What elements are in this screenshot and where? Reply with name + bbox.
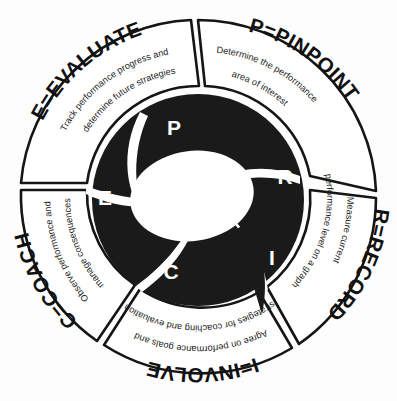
core-letter-i: I	[269, 246, 275, 269]
core-letter-e: E	[98, 186, 112, 209]
core-letter-c: C	[163, 260, 178, 283]
price-model-diagram: P R I C E P=PINPOINT R=RECORD I=INVOLVE …	[0, 0, 397, 401]
core-letter-r: R	[277, 165, 292, 188]
core-letter-p: P	[167, 116, 181, 139]
price-diagram-canvas: P R I C E P=PINPOINT R=RECORD I=INVOLVE …	[0, 0, 397, 401]
